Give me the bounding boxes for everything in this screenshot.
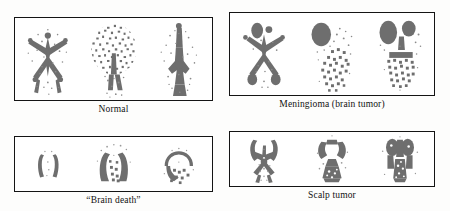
scan-row-meningioma	[230, 13, 434, 95]
scan-meningioma-posterior	[366, 13, 434, 95]
panel-box-normal	[14, 17, 213, 101]
scan-normal-lateral	[81, 18, 147, 100]
panel-group-brain-death: “Brain death”	[14, 136, 213, 210]
panel-group-normal: Normal	[14, 17, 213, 118]
panel-caption-normal: Normal	[14, 104, 213, 114]
scan-brain-death-posterior	[146, 137, 212, 191]
scan-scalp-tumor-lateral	[298, 132, 366, 186]
scan-meningioma-anterior	[230, 13, 298, 95]
scan-row-normal	[15, 18, 212, 100]
brain-scan-figure: Normal	[0, 0, 450, 211]
scan-scalp-tumor-posterior	[366, 132, 434, 186]
panel-box-scalp-tumor	[229, 131, 435, 187]
scan-row-scalp-tumor	[230, 132, 434, 186]
scan-normal-anterior	[15, 18, 81, 100]
panel-caption-scalp-tumor: Scalp tumor	[229, 190, 435, 200]
panel-caption-brain-death: “Brain death”	[14, 195, 213, 205]
scan-brain-death-lateral	[81, 137, 147, 191]
panel-box-brain-death	[14, 136, 213, 192]
scan-scalp-tumor-anterior	[230, 132, 298, 186]
scan-brain-death-anterior	[15, 137, 81, 191]
panel-group-meningioma: Meningioma (brain tumor)	[229, 12, 435, 113]
scan-row-brain-death	[15, 137, 212, 191]
scan-meningioma-lateral	[298, 13, 366, 95]
scan-normal-posterior	[146, 18, 212, 100]
panel-box-meningioma	[229, 12, 435, 96]
panel-group-scalp-tumor: Scalp tumor	[229, 131, 435, 205]
panel-caption-meningioma: Meningioma (brain tumor)	[229, 99, 435, 109]
